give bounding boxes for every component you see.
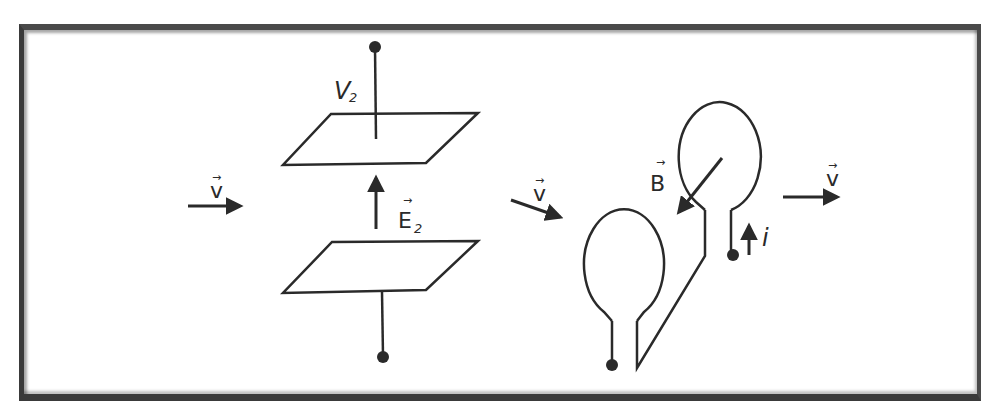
velocity-arrow-middle: → v xyxy=(511,174,560,217)
top-plate xyxy=(283,113,478,165)
electric-field-label: → E 2 xyxy=(398,194,422,236)
velocity-label-right: v xyxy=(826,166,839,191)
svg-text:2: 2 xyxy=(349,90,357,105)
lower-loop xyxy=(584,209,664,321)
top-terminal-wire xyxy=(375,47,376,139)
velocity-label-left: v xyxy=(210,178,223,203)
bottom-terminal-wire xyxy=(382,292,383,356)
svg-text:→: → xyxy=(403,194,412,207)
magnetic-field-label: → B xyxy=(650,156,665,196)
svg-text:2: 2 xyxy=(414,221,422,236)
coil xyxy=(584,102,761,368)
connecting-wire xyxy=(637,210,705,368)
svg-text:B: B xyxy=(650,171,665,196)
bottom-terminal-dot xyxy=(377,351,389,363)
coil-terminal-right xyxy=(727,249,739,261)
bottom-plate xyxy=(283,241,478,293)
diagram-canvas: → v V 2 → E 2 → v xyxy=(0,0,1000,408)
velocity-arrow-right: → v xyxy=(783,159,839,197)
svg-text:E: E xyxy=(398,208,412,233)
coil-terminal-left xyxy=(606,359,618,371)
capacitor: V 2 → E 2 xyxy=(283,41,478,363)
upper-loop xyxy=(679,102,761,210)
current-label: i xyxy=(762,224,769,252)
velocity-arrow-left: → v xyxy=(188,171,240,206)
voltage-label: V 2 xyxy=(334,77,357,105)
svg-text:→: → xyxy=(656,156,665,169)
velocity-label-middle: v xyxy=(533,181,546,206)
